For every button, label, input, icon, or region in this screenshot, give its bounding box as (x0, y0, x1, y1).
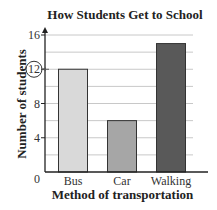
svg-text:12: 12 (28, 62, 40, 76)
bar-walking (157, 44, 186, 172)
svg-text:Walking: Walking (151, 174, 191, 188)
bar-chart: 0481216 BusCarWalking (0, 0, 217, 210)
svg-text:0: 0 (34, 172, 40, 186)
bar-car (108, 121, 137, 172)
bars (59, 44, 186, 172)
y-tick-labels: 0481216 (28, 28, 40, 186)
svg-text:16: 16 (28, 28, 40, 42)
x-category-labels: BusCarWalking (64, 174, 192, 188)
svg-text:4: 4 (34, 131, 40, 145)
svg-text:Car: Car (113, 174, 130, 188)
svg-text:Bus: Bus (64, 174, 83, 188)
svg-text:8: 8 (34, 97, 40, 111)
bar-bus (59, 69, 88, 172)
